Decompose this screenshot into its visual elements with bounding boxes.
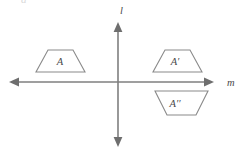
horizontal-axis-right-arrowhead [204,78,214,87]
axis-label-m: m [227,77,235,88]
vertical-axis-bottom-arrowhead [114,137,123,147]
trapezoid-a-double-prime-label: A′′ [168,98,181,109]
figure-canvas: a l m A A′ A′′ [0,0,247,155]
vertical-axis-top-arrowhead [114,22,123,32]
vertical-axis-l [114,22,123,147]
horizontal-axis-m [9,78,214,87]
horizontal-axis-left-arrowhead [9,78,19,87]
axis-label-l: l [120,5,123,16]
trapezoid-a-prime-label: A′ [170,56,180,67]
trapezoid-a-double-prime [155,91,208,115]
trapezoid-a-double-prime-prime-marks: ′′ [176,98,181,109]
trapezoid-a-label-text: A [56,56,64,67]
coordinate-plane-diagram: l m A A′ A′′ [0,0,247,155]
trapezoid-a-label: A [56,56,64,67]
